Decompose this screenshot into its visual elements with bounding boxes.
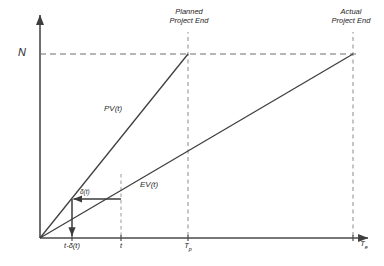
y-axis-label-n: N <box>18 46 26 59</box>
x-tick-label-te: Te <box>352 240 376 250</box>
planned-project-end-label: Planned Project End <box>153 8 225 25</box>
actual-project-end-line2: Project End <box>318 17 384 26</box>
planned-project-end-line2: Project End <box>153 17 225 26</box>
pv-curve-label: PV(t) <box>104 104 122 113</box>
x-tick-label-tp: Tp <box>176 242 200 252</box>
ev-curve <box>40 54 353 238</box>
x-tick-label-t: t <box>111 242 131 251</box>
x-tick-label-t-minus-delta: t-δ(t) <box>47 242 97 251</box>
delta-label: δ(t) <box>80 188 90 195</box>
pv-curve <box>40 54 188 238</box>
diagram-canvas: N Planned Project End Actual Project End… <box>0 0 384 266</box>
x-tick-tp-subscript: p <box>189 246 192 252</box>
x-tick-te-subscript: e <box>365 244 368 250</box>
schedule-delay-diagram <box>0 0 384 266</box>
ev-curve-label: EV(t) <box>140 180 158 189</box>
actual-project-end-label: Actual Project End <box>318 8 384 25</box>
